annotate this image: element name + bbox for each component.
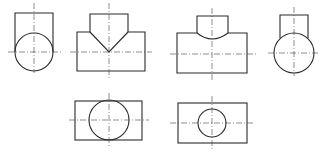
view-5-top-equal-cylinders bbox=[69, 93, 149, 148]
main-body-rect bbox=[75, 101, 142, 140]
view-2-front-equal-cylinders bbox=[70, 3, 152, 80]
main-body-outline bbox=[77, 32, 145, 71]
projection-diagram bbox=[0, 0, 324, 157]
view-1-side-equal-cylinders bbox=[8, 3, 61, 73]
view-3-front-unequal-cylinders bbox=[170, 8, 256, 80]
branch-outline bbox=[197, 16, 228, 33]
view-4-side-unequal-cylinders bbox=[268, 7, 320, 76]
intersection-curve bbox=[197, 33, 228, 39]
view-6-top-unequal-cylinders bbox=[170, 96, 255, 150]
